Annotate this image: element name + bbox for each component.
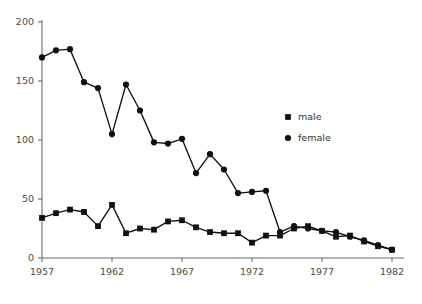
x-tick-labels: 195719621967197219771982: [30, 266, 404, 277]
series-male: [39, 202, 395, 253]
x-tick-label: 1972: [240, 266, 264, 277]
data-point: [81, 209, 87, 215]
data-point: [263, 188, 269, 194]
data-point: [165, 140, 171, 146]
data-point: [123, 230, 129, 236]
y-tick-label: 100: [16, 134, 34, 145]
data-point: [375, 242, 381, 248]
legend-item-male: male: [285, 111, 322, 122]
data-point: [151, 139, 157, 145]
data-point: [179, 217, 185, 223]
data-point: [305, 225, 311, 231]
data-point: [81, 79, 87, 85]
data-point: [53, 210, 59, 216]
data-point: [95, 223, 101, 229]
data-point: [137, 226, 143, 232]
x-tick-label: 1957: [30, 266, 54, 277]
data-point: [67, 46, 73, 52]
data-point: [277, 229, 283, 235]
data-point: [389, 247, 395, 253]
data-point: [193, 224, 199, 230]
data-point: [249, 240, 255, 246]
legend-item-female: female: [285, 132, 331, 143]
chart-canvas: 050100150200 195719621967197219771982 ma…: [0, 0, 422, 304]
data-point: [109, 131, 115, 137]
legend-label: male: [298, 111, 322, 122]
data-point: [95, 85, 101, 91]
data-point: [151, 227, 157, 233]
data-point: [39, 54, 45, 60]
data-point: [249, 189, 255, 195]
x-tick-label: 1967: [170, 266, 194, 277]
y-tick-labels: 050100150200: [16, 16, 34, 263]
data-point: [235, 190, 241, 196]
x-tick-label: 1977: [310, 266, 334, 277]
series-path: [42, 205, 392, 250]
data-point: [221, 230, 227, 236]
legend-label: female: [298, 132, 331, 143]
data-point: [333, 229, 339, 235]
y-tick-label: 0: [28, 252, 34, 263]
data-point: [221, 166, 227, 172]
data-point: [347, 234, 353, 240]
y-tick-label: 200: [16, 16, 34, 27]
data-point: [165, 219, 171, 225]
y-tick-label: 150: [16, 75, 34, 86]
data-series-layer: [39, 46, 395, 253]
data-point: [263, 233, 269, 239]
data-point: [207, 229, 213, 235]
x-tick-marks: [42, 258, 392, 262]
data-point: [361, 237, 367, 243]
y-tick-label: 50: [22, 193, 34, 204]
data-point: [109, 202, 115, 208]
data-point: [319, 228, 325, 234]
data-point: [53, 47, 59, 53]
x-axis-group: 195719621967197219771982: [30, 258, 404, 277]
data-point: [207, 151, 213, 157]
chart-legend: malefemale: [285, 111, 331, 143]
y-axis-group: 050100150200: [16, 16, 42, 263]
legend-marker-circle-icon: [285, 135, 291, 141]
data-point: [193, 170, 199, 176]
data-point: [123, 81, 129, 87]
data-point: [137, 107, 143, 113]
data-point: [235, 230, 241, 236]
x-tick-label: 1982: [380, 266, 404, 277]
x-tick-label: 1962: [100, 266, 124, 277]
legend-marker-square-icon: [285, 114, 291, 120]
line-chart: 050100150200 195719621967197219771982 ma…: [0, 0, 422, 304]
data-point: [179, 136, 185, 142]
series-path: [42, 49, 392, 250]
data-point: [291, 223, 297, 229]
data-point: [39, 215, 45, 221]
data-point: [67, 207, 73, 213]
series-female: [39, 46, 395, 253]
